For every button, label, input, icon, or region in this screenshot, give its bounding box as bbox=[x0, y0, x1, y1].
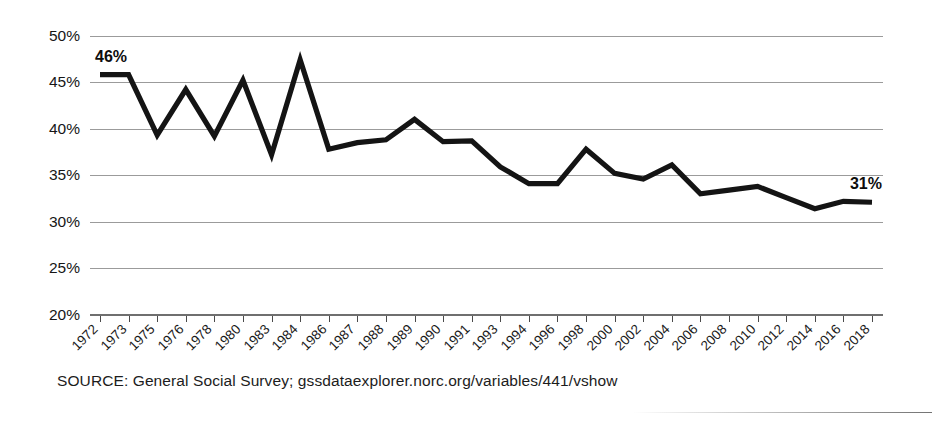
value-annotations: 46%31% bbox=[95, 48, 882, 193]
x-axis-tick-label: 2008 bbox=[698, 322, 730, 354]
y-axis-tick-label: 45% bbox=[49, 73, 80, 90]
x-axis-tick-label: 1978 bbox=[183, 322, 215, 354]
y-axis-tick-label: 50% bbox=[49, 27, 80, 44]
start-value-label: 46% bbox=[95, 48, 127, 65]
x-axis-tick-label: 1986 bbox=[298, 322, 330, 354]
y-axis-tick-label: 20% bbox=[49, 306, 80, 323]
x-axis-tick-label: 1984 bbox=[269, 321, 301, 353]
x-axis-tick-label: 1975 bbox=[126, 322, 158, 354]
x-axis-ticks bbox=[101, 315, 873, 322]
x-axis-tick-label: 1980 bbox=[212, 322, 244, 354]
x-axis-labels: 1972197319751976197819801983198419861987… bbox=[69, 321, 873, 353]
y-axis-tick-label: 40% bbox=[49, 120, 80, 137]
x-axis-tick-label: 2012 bbox=[755, 322, 787, 354]
x-axis-tick-label: 1987 bbox=[326, 322, 358, 354]
end-value-label: 31% bbox=[850, 175, 882, 192]
chart-container: 50%45%40%35%30%25%20% 197219731975197619… bbox=[0, 0, 947, 422]
x-axis-tick-label: 1998 bbox=[555, 322, 587, 354]
x-axis-tick-label: 1976 bbox=[155, 322, 187, 354]
x-axis-tick-label: 2006 bbox=[669, 322, 701, 354]
x-axis-tick-label: 2004 bbox=[641, 321, 673, 353]
x-axis-tick-label: 1993 bbox=[469, 322, 501, 354]
x-axis-tick-label: 1990 bbox=[412, 322, 444, 354]
x-axis-tick-label: 2002 bbox=[612, 322, 644, 354]
x-axis-tick-label: 1973 bbox=[98, 322, 130, 354]
x-axis-tick-label: 1991 bbox=[441, 322, 473, 354]
x-axis-tick-label: 2014 bbox=[784, 321, 816, 353]
x-axis-tick-label: 1988 bbox=[355, 322, 387, 354]
x-axis-tick-label: 2010 bbox=[727, 322, 759, 354]
source-note: SOURCE: General Social Survey; gssdataex… bbox=[57, 372, 618, 390]
y-axis-tick-label: 35% bbox=[49, 166, 80, 183]
x-axis-tick-label: 2018 bbox=[841, 322, 873, 354]
x-axis-tick-label: 1994 bbox=[498, 321, 530, 353]
x-axis-tick-label: 1996 bbox=[526, 322, 558, 354]
bottom-divider bbox=[632, 412, 932, 413]
y-axis-tick-label: 25% bbox=[49, 259, 80, 276]
x-axis-tick-label: 2000 bbox=[584, 322, 616, 354]
x-axis-tick-label: 2016 bbox=[812, 322, 844, 354]
line-chart: 50%45%40%35%30%25%20% 197219731975197619… bbox=[0, 0, 947, 422]
x-axis-tick-label: 1972 bbox=[69, 322, 101, 354]
y-axis-labels: 50%45%40%35%30%25%20% bbox=[49, 27, 80, 323]
y-axis-tick-label: 30% bbox=[49, 213, 80, 230]
x-axis-tick-label: 1983 bbox=[241, 322, 273, 354]
x-axis-tick-label: 1989 bbox=[384, 322, 416, 354]
